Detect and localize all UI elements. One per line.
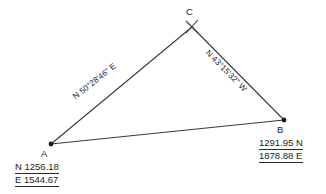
vertex-a-dot [49, 142, 54, 147]
side-a-to-c [51, 27, 192, 144]
survey-traverse-diagram: A B C N 1256.18 E 1544.67 1291.95 N 1878… [0, 0, 326, 194]
vertex-label-a: A [41, 148, 48, 159]
side-c-to-b [192, 27, 284, 120]
vertex-label-c: C [186, 6, 193, 17]
side-a-to-b [51, 120, 284, 144]
coordinate-northing-b: 1291.95 N [259, 137, 303, 150]
coordinate-northing-a: N 1256.18 [15, 161, 59, 174]
vertex-label-b: B [277, 124, 284, 135]
coordinates-point-b: 1291.95 N 1878.88 E [259, 137, 303, 163]
vertex-b-dot [282, 118, 287, 123]
coordinate-easting-a: E 1544.67 [15, 174, 59, 187]
coordinates-point-a: N 1256.18 E 1544.67 [15, 161, 59, 187]
coordinate-easting-b: 1878.88 E [259, 150, 303, 163]
